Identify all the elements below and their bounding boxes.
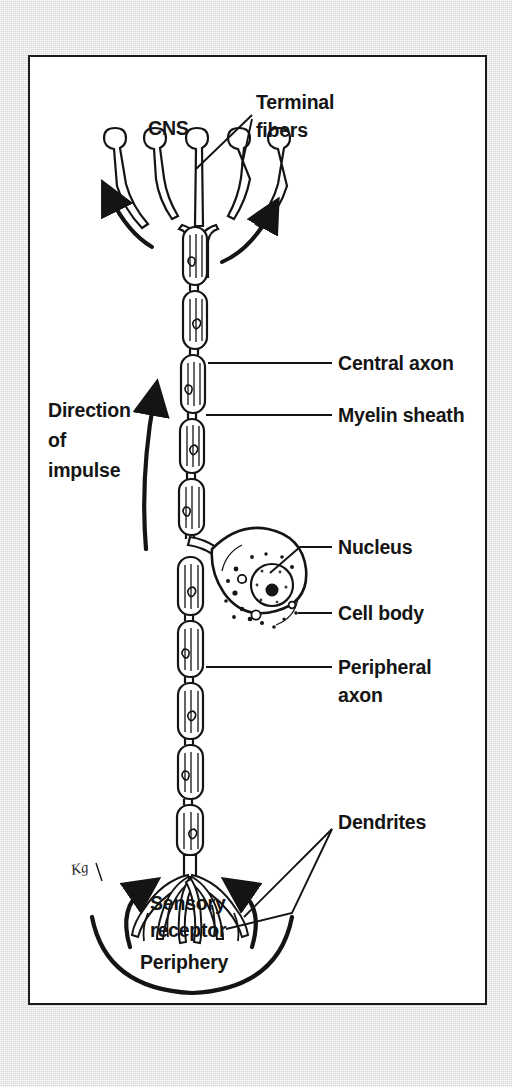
label-peripheral-axon-line2: axon (338, 684, 383, 706)
label-sensory-line1: Sensory (150, 892, 226, 914)
label-direction-line1: Direction (48, 399, 131, 421)
label-myelin-sheath: Myelin sheath (338, 404, 464, 426)
label-nucleus: Nucleus (338, 536, 413, 558)
figure-panel: CNS Terminal fibers Direction of impulse… (28, 55, 487, 1005)
label-sensory-line2: receptor (150, 919, 227, 941)
label-direction-line3: impulse (48, 459, 121, 481)
label-terminal-fibers-line1: Terminal (256, 91, 334, 113)
nucleolus (266, 584, 279, 597)
label-direction-line2: of (48, 429, 67, 451)
label-peripheral-axon-line1: Peripheral (338, 656, 431, 678)
label-periphery: Periphery (140, 951, 229, 973)
label-terminal-fibers-line2: fibers (256, 119, 308, 141)
label-cns: CNS (148, 117, 189, 139)
label-dendrites: Dendrites (338, 811, 426, 833)
artist-signature: Kg (68, 859, 90, 879)
impulse-direction-arrow (144, 399, 154, 549)
label-cell-body: Cell body (338, 602, 424, 624)
artist-signature-stroke (96, 863, 102, 881)
label-central-axon: Central axon (338, 352, 454, 374)
leader-dendrites-b (244, 829, 332, 917)
neuron-diagram-svg: CNS Terminal fibers Direction of impulse… (30, 57, 485, 1003)
cell-body-group (188, 528, 306, 629)
